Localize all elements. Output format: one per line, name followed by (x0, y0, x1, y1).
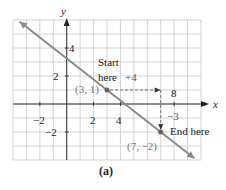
run-label: +4 (125, 71, 137, 83)
rise-label: −3 (167, 110, 179, 122)
point-label: (7, −2) (127, 140, 157, 153)
end-label: End here (170, 125, 210, 137)
x-axis-label: x (212, 98, 218, 110)
run-arrowhead-icon (155, 88, 161, 93)
data-point (105, 88, 110, 93)
caption: (a) (99, 164, 113, 178)
y-axis-label: y (60, 5, 66, 17)
x-tick-label: 8 (171, 87, 177, 99)
rise-arrowhead-icon (158, 124, 163, 130)
start-label: Start (98, 56, 119, 68)
point-label: (3, 1) (75, 83, 99, 96)
x-axis-arrow-icon (201, 101, 209, 107)
x-tick-label: −2 (33, 114, 45, 126)
chart: y x −2 2 4 8 4 2 −2 Start here +4 (3, 1)… (0, 0, 226, 190)
y-tick-label: −2 (45, 126, 57, 138)
y-axis-arrow-icon (64, 18, 70, 26)
x-tick-label: 4 (116, 114, 122, 126)
x-tick-label: 2 (90, 114, 96, 126)
data-point (158, 130, 163, 135)
y-tick-label: 2 (53, 70, 59, 82)
start-label-line2: here (98, 71, 117, 83)
y-tick-label: 4 (69, 42, 75, 54)
